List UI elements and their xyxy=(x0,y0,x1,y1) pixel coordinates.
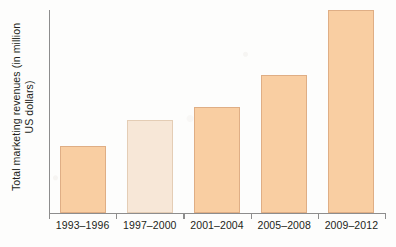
bar-slot xyxy=(49,10,116,213)
bar-slot xyxy=(318,10,385,213)
y-axis-title: Total marketing revenues (in million US … xyxy=(10,22,36,190)
x-axis-tick-labels: 1993–19961997–20002001–20042005–20082009… xyxy=(49,219,385,239)
x-axis-tick-label: 1997–2000 xyxy=(114,219,186,231)
y-axis-title-line2: US dollars) xyxy=(23,22,36,190)
x-axis-tick-label: 1993–1996 xyxy=(47,219,119,231)
bar-slot xyxy=(183,10,250,213)
bar-1993-1996[interactable] xyxy=(60,146,106,213)
bar-slot xyxy=(251,10,318,213)
y-axis-title-container: Total marketing revenues (in million US … xyxy=(0,0,46,213)
bar-1997-2000[interactable] xyxy=(127,120,173,213)
bar-2001-2004[interactable] xyxy=(194,107,240,213)
x-axis-tick-label: 2001–2004 xyxy=(181,219,253,231)
bar-2009-2012[interactable] xyxy=(328,10,374,213)
bar-2005-2008[interactable] xyxy=(261,75,307,213)
x-axis-tick-label: 2009–2012 xyxy=(315,219,387,231)
plot-area xyxy=(49,10,385,213)
y-axis-title-line1: Total marketing revenues (in million xyxy=(10,22,22,190)
bar-slot xyxy=(116,10,183,213)
x-axis-tick-label: 2005–2008 xyxy=(248,219,320,231)
bar-chart: Total marketing revenues (in million US … xyxy=(0,0,396,247)
